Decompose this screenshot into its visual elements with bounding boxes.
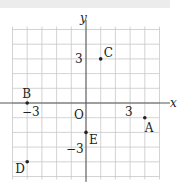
- y-axis-label: y: [79, 11, 87, 25]
- point-label-d: D: [15, 162, 25, 176]
- point-a: [143, 116, 147, 120]
- coordinate-plane: x y O 3 −3 3 −3 ABCDE: [0, 0, 181, 191]
- x-axis-label: x: [170, 96, 177, 110]
- point-e: [84, 131, 88, 135]
- point-label-e: E: [89, 133, 98, 147]
- point-b: [25, 101, 29, 105]
- point-d: [25, 160, 29, 164]
- point-label-a: A: [144, 121, 154, 135]
- origin-label: O: [74, 108, 84, 122]
- point-label-b: B: [22, 87, 31, 101]
- tick-y-neg: −3: [66, 142, 84, 156]
- tick-x-neg: −3: [22, 105, 40, 119]
- tick-y-pos: 3: [75, 52, 83, 66]
- tick-x-pos: 3: [125, 105, 133, 119]
- point-c: [99, 57, 103, 61]
- point-label-c: C: [104, 46, 113, 60]
